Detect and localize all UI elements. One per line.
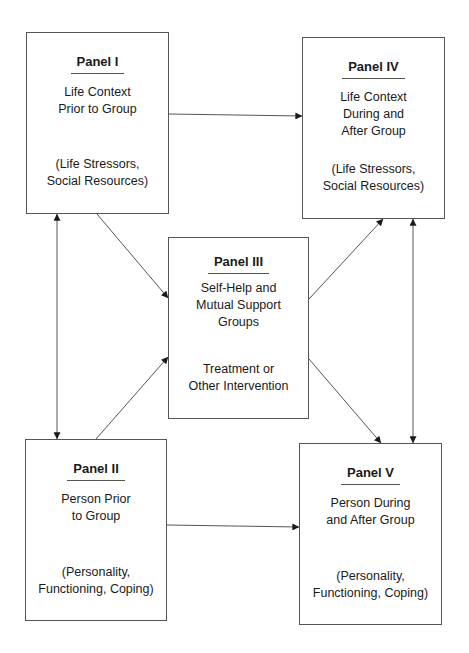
- desc-line: After Group: [303, 123, 444, 140]
- panel-1-life-context-prior: Panel I Life Context Prior to Group (Lif…: [26, 32, 169, 214]
- panel-note: (Personality, Functioning, Coping): [300, 568, 441, 602]
- note-line: Functioning, Coping): [300, 585, 441, 602]
- panel-4-life-context-during-after: Panel IV Life Context During and After G…: [302, 37, 445, 219]
- note-line: Social Resources): [27, 173, 168, 190]
- bidirectional-inner-arrows: [169, 331, 308, 361]
- panel-5-person-during-after: Panel V Person During and After Group (P…: [299, 443, 442, 625]
- panel-title: Panel I: [71, 53, 125, 74]
- panel-note: (Life Stressors, Social Resources): [303, 161, 444, 195]
- panel-title: Panel V: [341, 464, 400, 485]
- panel-description: Life Context Prior to Group: [27, 84, 168, 118]
- arrow-panel2-to-panel3: [96, 357, 168, 439]
- panel-title: Panel IV: [342, 58, 405, 79]
- arrow-panel3-to-panel4: [309, 219, 383, 299]
- note-line: (Personality,: [26, 564, 166, 581]
- note-line: (Life Stressors,: [27, 156, 168, 173]
- desc-line: Self-Help and: [169, 280, 308, 297]
- desc-line: Mutual Support: [169, 297, 308, 314]
- note-line: Functioning, Coping): [26, 581, 166, 598]
- arrow-panel3-to-panel5: [309, 359, 381, 443]
- after-line: Treatment or: [169, 361, 308, 378]
- desc-line: Person Prior: [26, 491, 166, 508]
- panel-description: Life Context During and After Group: [303, 89, 444, 140]
- panel-description: Person Prior to Group: [26, 491, 166, 525]
- desc-line: During and: [303, 106, 444, 123]
- arrow-panel1-to-panel4: [169, 114, 302, 116]
- arrow-panel2-to-panel5: [167, 525, 299, 527]
- desc-line: Person During: [300, 495, 441, 512]
- desc-line: to Group: [26, 508, 166, 525]
- note-line: Social Resources): [303, 178, 444, 195]
- desc-line: and After Group: [300, 512, 441, 529]
- desc-line: Life Context: [303, 89, 444, 106]
- panel-title: Panel II: [67, 460, 125, 481]
- panel-note: (Life Stressors, Social Resources): [27, 156, 168, 190]
- panel-3-self-help-groups: Panel III Self-Help and Mutual Support G…: [168, 237, 309, 419]
- panel-description: Person During and After Group: [300, 495, 441, 529]
- panel-description: Self-Help and Mutual Support Groups: [169, 280, 308, 331]
- after-line: Other Intervention: [169, 378, 308, 395]
- panel-intervention-text: Treatment or Other Intervention: [169, 361, 308, 395]
- note-line: (Life Stressors,: [303, 161, 444, 178]
- desc-line: Prior to Group: [27, 101, 168, 118]
- note-line: (Personality,: [300, 568, 441, 585]
- desc-line: Life Context: [27, 84, 168, 101]
- arrow-panel1-to-panel3: [97, 214, 168, 298]
- desc-line: Groups: [169, 314, 308, 331]
- panel-title: Panel III: [208, 253, 269, 274]
- panel-note: (Personality, Functioning, Coping): [26, 564, 166, 598]
- panel-2-person-prior: Panel II Person Prior to Group (Personal…: [25, 439, 167, 621]
